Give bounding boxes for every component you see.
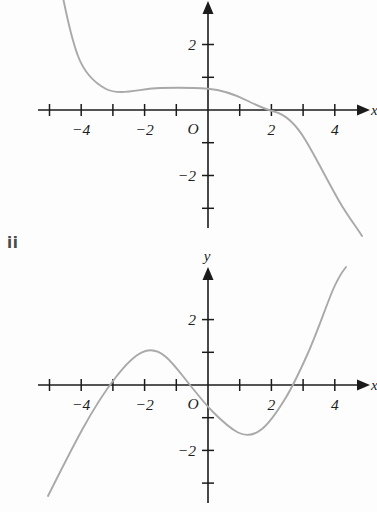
y-axis-arrowhead-i: [203, 1, 214, 14]
curve-i: [64, 0, 363, 236]
x-axis-name-ii: x: [370, 377, 377, 393]
y-axis-name-ii: y: [202, 248, 211, 264]
x-tick-label-ii-4: 4: [331, 396, 339, 413]
figure-page: −4 −2 2 4 2 −2 O x: [0, 0, 377, 512]
graph-i-svg: −4 −2 2 4 2 −2 O x: [0, 0, 377, 240]
y-tick-label-i-2: 2: [188, 36, 196, 53]
graph-ii-svg: −4 −2 2 4 2 −2 O y x: [0, 240, 377, 512]
y-tick-label-i-neg2: −2: [178, 167, 196, 184]
x-tick-label-i-2: 2: [268, 121, 276, 138]
x-tick-label-i-4: 4: [331, 121, 339, 138]
x-axis-arrowhead-ii: [357, 380, 370, 391]
y-tick-label-ii-2: 2: [188, 311, 196, 328]
curve-ii: [48, 267, 346, 496]
x-tick-label-ii-2: 2: [268, 396, 276, 413]
x-tick-label-ii-neg2: −2: [135, 396, 153, 413]
graph-panel-ii: −4 −2 2 4 2 −2 O y x: [0, 240, 377, 512]
y-tick-label-ii-neg2: −2: [178, 442, 196, 459]
origin-label-ii: O: [187, 395, 198, 412]
x-axis-arrowhead-i: [357, 105, 370, 116]
x-tick-label-ii-neg4: −4: [72, 396, 90, 413]
panel-label-ii: ii: [7, 234, 18, 252]
x-axis-name-i: x: [370, 102, 377, 118]
origin-label-i: O: [187, 120, 198, 137]
x-tick-label-i-neg2: −2: [135, 121, 153, 138]
y-axis-arrowhead-ii: [203, 267, 214, 280]
x-tick-label-i-neg4: −4: [72, 121, 90, 138]
graph-panel-i: −4 −2 2 4 2 −2 O x: [0, 0, 377, 240]
